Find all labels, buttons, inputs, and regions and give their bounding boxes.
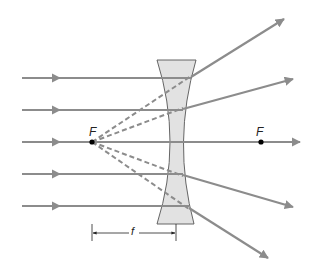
focal-label-left: F (89, 126, 96, 138)
diverging-lens-diagram (0, 0, 319, 274)
outgoing-ray-5 (189, 208, 268, 258)
focal-length-label: f (131, 226, 134, 237)
outgoing-rays (178, 19, 300, 258)
outgoing-ray-1 (191, 19, 284, 77)
outgoing-ray-4 (183, 175, 293, 207)
incoming-rays (22, 78, 191, 206)
focal-label-right: F (256, 126, 263, 138)
outgoing-ray-2 (183, 79, 293, 109)
focal-point-left (89, 139, 94, 144)
focal-point-right (258, 139, 263, 144)
